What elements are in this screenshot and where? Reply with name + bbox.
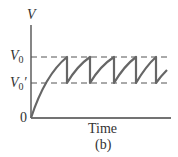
figure-caption: (b) <box>95 138 111 152</box>
v0-prime-label-base: V <box>10 75 19 90</box>
voltage-curve <box>31 57 167 118</box>
y-axis-label: V <box>27 8 36 22</box>
v0-label-sub: 0 <box>19 54 24 65</box>
origin-label: 0 <box>20 111 27 125</box>
v0-label-base: V <box>10 48 19 63</box>
x-axis-label: Time <box>88 122 117 136</box>
v0-prime-label-prime: ′ <box>24 75 27 90</box>
v0-label: V0 <box>10 49 24 67</box>
v0-prime-label: V0′ <box>10 76 27 94</box>
